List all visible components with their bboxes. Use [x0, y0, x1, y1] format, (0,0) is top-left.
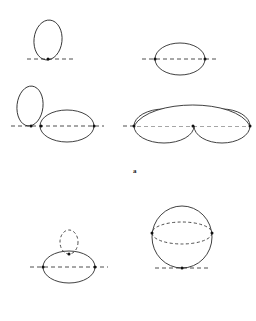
vertical-loop-plus-horizontal-loop [11, 85, 104, 142]
vertex-dot-1 [94, 266, 97, 269]
vertex-dot-0 [42, 266, 45, 269]
panel-label-a: a [133, 168, 137, 175]
horizontal-loop-with-dashed-tadpole [30, 230, 108, 283]
vertex-dot-0 [30, 125, 33, 128]
vertex-dot-2 [93, 125, 96, 128]
dashed-loop-0 [60, 230, 78, 254]
vertical-loop-tangent-to-axis [27, 19, 74, 62]
solid-loop-0 [15, 85, 45, 127]
vertex-dot-1 [192, 125, 195, 128]
vertex-dot-2 [249, 125, 252, 128]
vertex-dot-2 [68, 253, 71, 256]
vertex-dot-0 [181, 267, 184, 270]
double-lobe-loop-on-axis [123, 105, 252, 143]
vertex-dot-0 [154, 58, 157, 61]
vertex-dot-2 [211, 232, 214, 235]
dashed-loop-0 [152, 222, 212, 244]
horizontal-loop-crossing-axis [142, 43, 219, 75]
vertex-dot-0 [47, 58, 50, 61]
vertex-dot-1 [40, 125, 43, 128]
vertex-dot-1 [204, 58, 207, 61]
vertex-dot-0 [133, 125, 136, 128]
vertex-dot-1 [151, 232, 154, 235]
solid-loop-0 [32, 19, 64, 62]
figure-canvas: a [0, 0, 256, 321]
upper-connecting-arc [134, 105, 250, 126]
solid-loop-0 [152, 206, 212, 268]
vertical-loop-with-dashed-equator [151, 206, 214, 270]
diagram-svg [0, 0, 256, 321]
